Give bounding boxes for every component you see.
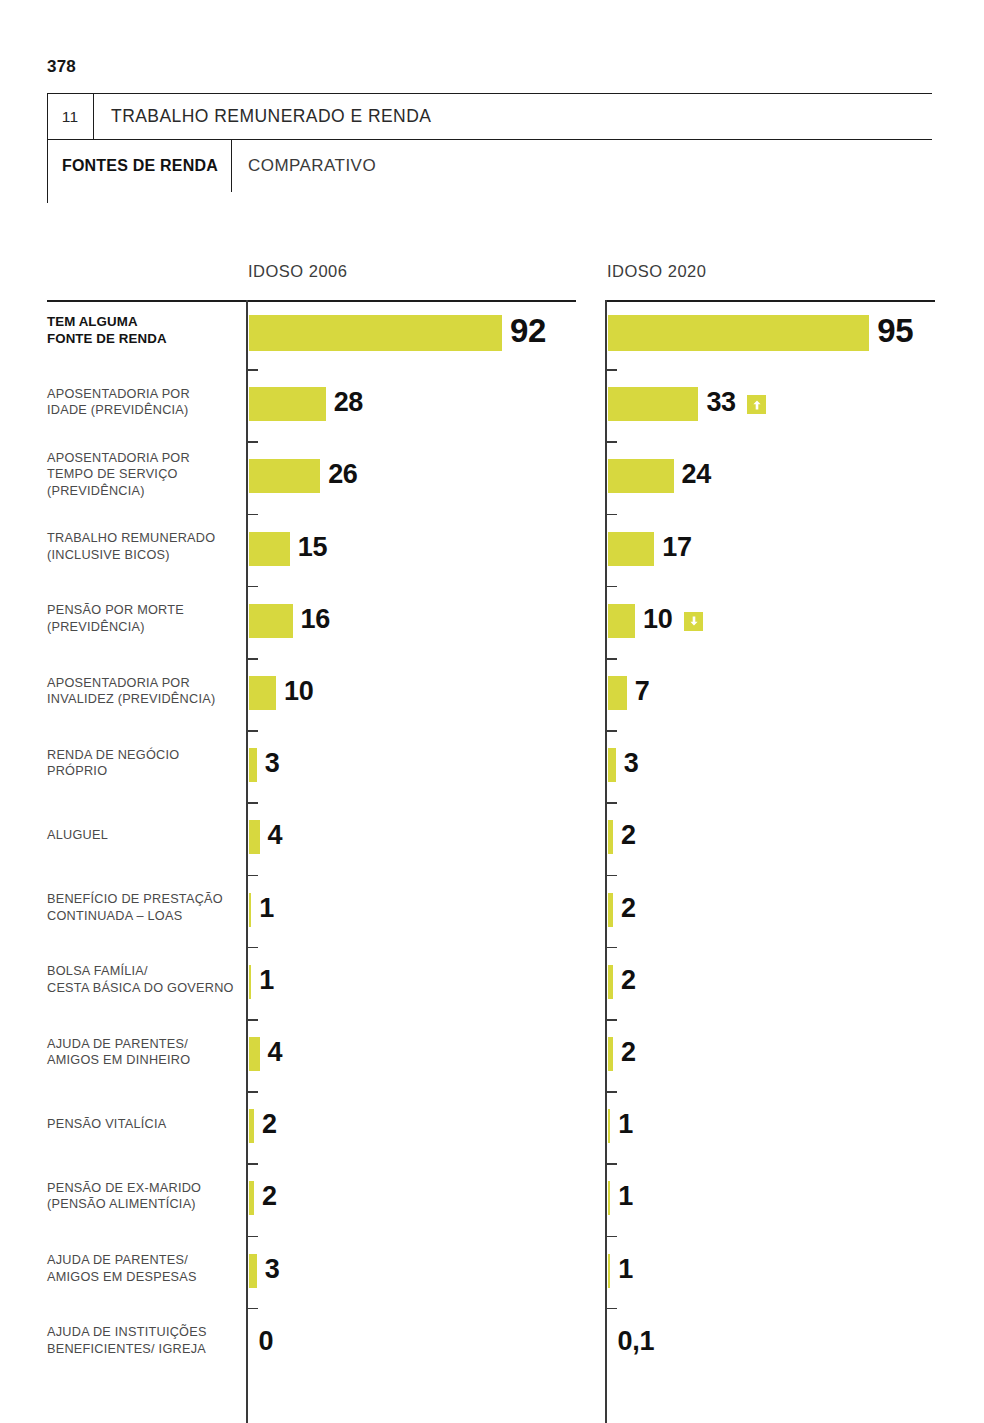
bar-right xyxy=(608,965,614,999)
bar-value-left: 15 xyxy=(298,532,327,563)
row-label: APOSENTADORIA PORINVALIDEZ (PREVIDÊNCIA) xyxy=(47,675,239,708)
bar-left xyxy=(249,748,257,782)
row-label-line: CONTINUADA – LOAS xyxy=(47,909,182,923)
row-label-line: BENEFÍCIO DE PRESTAÇÃO xyxy=(47,892,223,906)
bar-value-left: 2 xyxy=(262,1181,277,1212)
axis-tick-left xyxy=(247,875,258,877)
axis-tick-left xyxy=(247,514,258,516)
comparative-chart: IDOSO 2006 IDOSO 2020 TEM ALGUMAFONTE DE… xyxy=(0,0,984,1423)
bar-left xyxy=(249,893,252,927)
bar-right xyxy=(608,893,614,927)
row-label-line: TEM ALGUMA xyxy=(47,314,138,329)
axis-tick-left xyxy=(247,802,258,804)
axis-tick-left xyxy=(247,1236,258,1238)
row-label: ALUGUEL xyxy=(47,827,239,844)
row-label-line: AJUDA DE PARENTES/ xyxy=(47,1037,188,1051)
bar-value-left: 2 xyxy=(262,1109,277,1140)
axis-tick-right xyxy=(606,586,617,588)
bar-value-right: 2 xyxy=(621,965,636,996)
axis-left xyxy=(246,300,248,1423)
bar-right xyxy=(608,1181,611,1215)
bar-value-right: 95 xyxy=(877,312,913,350)
row-label-line: PENSÃO DE EX-MARIDO xyxy=(47,1181,201,1195)
row-label: PENSÃO DE EX-MARIDO(PENSÃO ALIMENTÍCIA) xyxy=(47,1180,239,1213)
panel-rule-left xyxy=(47,300,576,302)
bar-value-left: 1 xyxy=(259,893,274,924)
bar-left xyxy=(249,1037,260,1071)
row-label-line: IDADE (PREVIDÊNCIA) xyxy=(47,403,189,417)
trend-down-icon xyxy=(684,612,703,631)
bar-left xyxy=(249,459,321,493)
row-label-line: (PREVIDÊNCIA) xyxy=(47,484,145,498)
bar-value-left: 26 xyxy=(328,459,357,490)
axis-tick-right xyxy=(606,802,617,804)
axis-tick-left xyxy=(247,947,258,949)
bar-value-right: 7 xyxy=(635,676,650,707)
bar-left xyxy=(249,315,502,351)
axis-tick-left xyxy=(247,369,258,371)
axis-tick-right xyxy=(606,514,617,516)
bar-value-right: 0,1 xyxy=(618,1326,655,1357)
row-label-line: BENEFICIENTES/ IGREJA xyxy=(47,1342,206,1356)
row-label-line: AMIGOS EM DINHEIRO xyxy=(47,1053,190,1067)
bar-value-left: 1 xyxy=(259,965,274,996)
row-label: BOLSA FAMÍLIA/CESTA BÁSICA DO GOVERNO xyxy=(47,963,239,996)
bar-left xyxy=(249,1181,255,1215)
bar-left xyxy=(249,820,260,854)
bar-value-right: 17 xyxy=(662,532,691,563)
bar-value-left: 92 xyxy=(510,312,546,350)
row-label-line: APOSENTADORIA POR xyxy=(47,387,190,401)
bar-value-left: 3 xyxy=(265,748,280,779)
axis-tick-left xyxy=(247,730,258,732)
bar-value-right: 1 xyxy=(618,1181,633,1212)
row-label-line: PENSÃO VITALÍCIA xyxy=(47,1117,166,1131)
axis-tick-right xyxy=(606,730,617,732)
axis-tick-left xyxy=(247,1163,258,1165)
bar-right xyxy=(608,459,674,493)
row-label-line: TRABALHO REMUNERADO xyxy=(47,531,215,545)
row-label-line: PRÓPRIO xyxy=(47,764,107,778)
bar-right xyxy=(608,748,616,782)
bar-value-left: 16 xyxy=(301,604,330,635)
bar-right xyxy=(608,1254,611,1288)
row-label: TEM ALGUMAFONTE DE RENDA xyxy=(47,314,239,347)
bar-left xyxy=(249,1254,257,1288)
axis-tick-left xyxy=(247,1019,258,1021)
row-label: AJUDA DE INSTITUIÇÕESBENEFICIENTES/ IGRE… xyxy=(47,1324,239,1357)
bar-value-right: 2 xyxy=(621,820,636,851)
bar-value-left: 4 xyxy=(268,820,283,851)
row-label: TRABALHO REMUNERADO(INCLUSIVE BICOS) xyxy=(47,530,239,563)
bar-value-left: 0 xyxy=(259,1326,274,1357)
row-label-line: ALUGUEL xyxy=(47,828,108,842)
row-label-line: TEMPO DE SERVIÇO xyxy=(47,467,178,481)
bar-right xyxy=(608,315,870,351)
bar-value-right: 2 xyxy=(621,893,636,924)
row-label: PENSÃO VITALÍCIA xyxy=(47,1116,239,1133)
bar-value-right: 1 xyxy=(618,1254,633,1285)
bar-right xyxy=(608,387,699,421)
row-label-line: (PREVIDÊNCIA) xyxy=(47,620,145,634)
row-label-line: CESTA BÁSICA DO GOVERNO xyxy=(47,981,234,995)
row-label-line: PENSÃO POR MORTE xyxy=(47,603,184,617)
row-label-line: APOSENTADORIA POR xyxy=(47,676,190,690)
axis-right xyxy=(605,300,607,1423)
bar-left xyxy=(249,604,293,638)
row-label-line: AJUDA DE INSTITUIÇÕES xyxy=(47,1325,207,1339)
axis-tick-left xyxy=(247,586,258,588)
axis-tick-right xyxy=(606,1308,617,1310)
bar-value-right: 24 xyxy=(682,459,711,490)
row-label-line: FONTE DE RENDA xyxy=(47,331,167,346)
axis-tick-left xyxy=(247,1308,258,1310)
trend-up-icon xyxy=(747,395,766,414)
bar-value-left: 3 xyxy=(265,1254,280,1285)
row-label: BENEFÍCIO DE PRESTAÇÃOCONTINUADA – LOAS xyxy=(47,891,239,924)
bar-value-right: 2 xyxy=(621,1037,636,1068)
bar-left xyxy=(249,676,277,710)
row-label-line: INVALIDEZ (PREVIDÊNCIA) xyxy=(47,692,215,706)
row-label-line: AJUDA DE PARENTES/ xyxy=(47,1253,188,1267)
bar-right xyxy=(608,676,627,710)
column-title-right: IDOSO 2020 xyxy=(607,262,706,281)
axis-tick-right xyxy=(606,947,617,949)
panel-rule-right xyxy=(606,300,935,302)
row-label-line: BOLSA FAMÍLIA/ xyxy=(47,964,148,978)
